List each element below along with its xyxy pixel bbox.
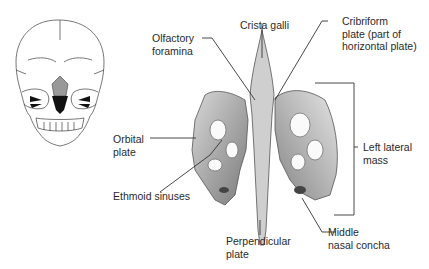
- leader-cribriform-plate: [275, 21, 328, 100]
- label-middle-nasal-concha: Middle nasal concha: [328, 226, 390, 251]
- label-cribriform-plate: Cribriform plate (part of horizontal pla…: [342, 15, 417, 53]
- label-olfactory-foramina: Olfactory foramina: [152, 32, 194, 57]
- bracket-left-lateral-mass: [315, 83, 358, 215]
- label-orbital-plate: Orbital plate: [113, 133, 144, 158]
- label-left-lateral-mass: Left lateral mass: [363, 141, 412, 166]
- leader-olfactory-foramina: [202, 38, 255, 100]
- label-perpendicular-plate: Perpendicular plate: [226, 235, 291, 260]
- leader-ethmoid-sinuses: [160, 140, 222, 192]
- label-ethmoid-sinuses: Ethmoid sinuses: [113, 190, 190, 203]
- label-crista-galli: Crista galli: [240, 19, 289, 32]
